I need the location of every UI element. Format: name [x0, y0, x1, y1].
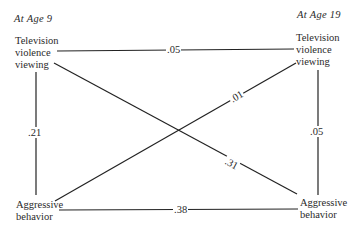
- node-line: viewing: [296, 56, 340, 68]
- node-line: violence: [296, 44, 340, 56]
- coef-tv9-tv19: .05: [166, 44, 181, 55]
- coef-agg9-agg19: .38: [173, 204, 188, 215]
- node-tv-violence-age9: Television violence viewing: [15, 35, 59, 71]
- coef-tv9-agg9: .21: [27, 127, 42, 138]
- coef-tv19-agg19: .05: [309, 126, 324, 137]
- node-line: Television: [296, 32, 340, 44]
- node-aggressive-age9: Aggressive behavior: [16, 199, 63, 223]
- node-line: viewing: [15, 59, 59, 71]
- node-tv-violence-age19: Television violence viewing: [296, 32, 340, 68]
- node-aggressive-age19: Aggressive behavior: [300, 197, 347, 221]
- node-line: behavior: [16, 211, 63, 223]
- node-line: Aggressive: [16, 199, 63, 211]
- node-line: behavior: [300, 209, 347, 221]
- node-line: Television: [15, 35, 59, 47]
- node-line: violence: [15, 47, 59, 59]
- node-line: Aggressive: [300, 197, 347, 209]
